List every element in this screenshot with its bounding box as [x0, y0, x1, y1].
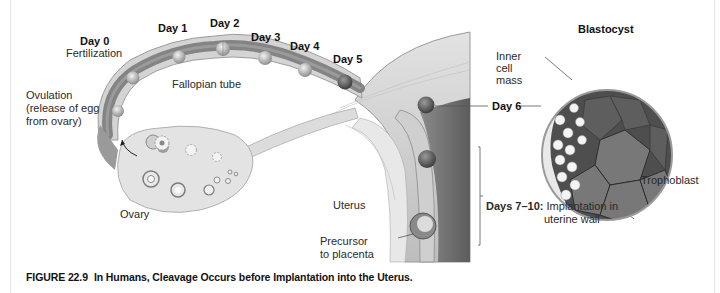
label-days-7-10: Days 7–10: Implantation in: [486, 200, 618, 213]
label-day-5: Day 5: [333, 53, 362, 66]
label-precursor-1: Precursor: [320, 235, 368, 248]
label-implantation-2: uterine wall: [544, 213, 600, 226]
label-day-4: Day 4: [290, 40, 319, 53]
figure-title: In Humans, Cleavage Occurs before Implan…: [94, 271, 413, 283]
label-ovulation-2: (release of egg: [26, 102, 99, 115]
figure-caption: FIGURE 22.9In Humans, Cleavage Occurs be…: [26, 271, 413, 283]
label-day-1: Day 1: [158, 22, 187, 35]
label-precursor-2: to placenta: [320, 248, 374, 261]
label-day-6: Day 6: [492, 100, 521, 113]
label-day-2: Day 2: [210, 17, 239, 30]
label-day-3: Day 3: [251, 31, 280, 44]
label-trophoblast: Trophoblast: [641, 174, 699, 187]
label-ovulation-3: from ovary): [26, 115, 82, 128]
label-implantation-1: Implantation in: [547, 200, 619, 212]
uterus-body: [330, 32, 470, 262]
label-blastocyst: Blastocyst: [578, 23, 634, 36]
label-fallopian-tube: Fallopian tube: [172, 78, 241, 91]
label-inner-cell-3: mass: [496, 74, 522, 87]
ovary: [118, 126, 253, 212]
label-ovulation-1: Ovulation: [26, 89, 72, 102]
label-fertilization: Fertilization: [66, 47, 122, 60]
label-uterus: Uterus: [333, 199, 365, 212]
label-ovary: Ovary: [120, 208, 149, 221]
label-days-7-10-heading: Days 7–10:: [486, 200, 544, 212]
figure-number: FIGURE 22.9: [26, 271, 88, 283]
